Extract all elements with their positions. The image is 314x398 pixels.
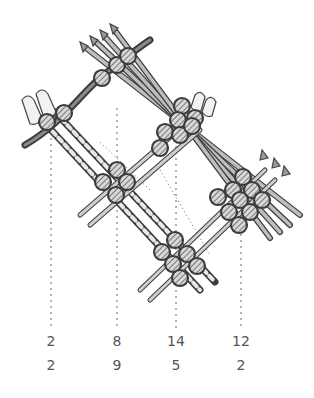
column-2-top-label: 8 [113, 333, 122, 349]
knot-cluster-bottom [154, 232, 205, 286]
column-1-top-label: 2 [47, 333, 56, 349]
column-1-bottom-label: 2 [47, 357, 56, 373]
column-4-bottom-label: 2 [237, 357, 246, 373]
column-4-top-label: 12 [232, 333, 250, 349]
column-3-bottom-label: 5 [172, 357, 181, 373]
column-3-top-label: 14 [167, 333, 185, 349]
column-2-bottom-label: 9 [113, 357, 122, 373]
